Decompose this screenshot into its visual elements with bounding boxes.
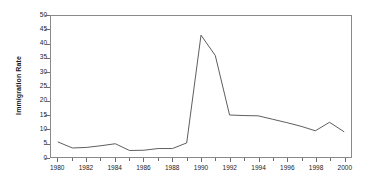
y-tick-label: 40 [23, 40, 47, 47]
x-tick-mark-minor [273, 158, 274, 161]
x-tick-mark-minor [158, 158, 159, 161]
x-tick-mark-minor [302, 158, 303, 161]
x-tick-mark-major [115, 158, 116, 162]
x-tick-mark-major [345, 158, 346, 162]
x-tick-label: 1990 [186, 165, 216, 172]
x-tick-label: 1998 [301, 165, 331, 172]
x-tick-label: 1994 [244, 165, 274, 172]
x-tick-label: 1988 [157, 165, 187, 172]
x-tick-mark-minor [215, 158, 216, 161]
x-tick-label: 1996 [272, 165, 302, 172]
y-tick-label: 25 [23, 83, 47, 90]
data-line-svg [51, 16, 351, 157]
x-tick-mark-major [201, 158, 202, 162]
x-tick-mark-minor [129, 158, 130, 161]
x-tick-mark-major [86, 158, 87, 162]
x-tick-mark-major [143, 158, 144, 162]
y-axis-tick-labels: 05101520253035404550 [20, 0, 47, 189]
x-tick-mark-major [287, 158, 288, 162]
y-tick-label: 50 [23, 12, 47, 19]
x-tick-mark-major [57, 158, 58, 162]
y-tick-label: 20 [23, 97, 47, 104]
y-tick-label: 35 [23, 54, 47, 61]
x-tick-label: 1986 [128, 165, 158, 172]
x-tick-mark-minor [100, 158, 101, 161]
x-tick-label: 1984 [100, 165, 130, 172]
series-line-immigration-rate [58, 35, 344, 150]
y-tick-label: 0 [23, 155, 47, 162]
y-tick-label: 30 [23, 69, 47, 76]
y-tick-label: 15 [23, 112, 47, 119]
x-tick-mark-minor [330, 158, 331, 161]
x-tick-mark-major [316, 158, 317, 162]
x-tick-label: 1982 [71, 165, 101, 172]
y-tick-label: 45 [23, 26, 47, 33]
y-tick-label: 10 [23, 126, 47, 133]
x-tick-mark-minor [72, 158, 73, 161]
x-tick-mark-minor [244, 158, 245, 161]
x-tick-mark-major [172, 158, 173, 162]
x-tick-label: 2000 [330, 165, 360, 172]
x-tick-label: 1992 [215, 165, 245, 172]
immigration-rate-line-chart: Immigration Rate 05101520253035404550 19… [0, 0, 369, 189]
x-tick-mark-major [230, 158, 231, 162]
x-tick-mark-minor [187, 158, 188, 161]
y-tick-label: 5 [23, 140, 47, 147]
x-tick-mark-major [259, 158, 260, 162]
plot-area [50, 15, 352, 158]
